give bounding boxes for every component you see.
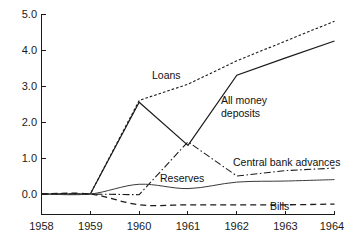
y-tick-label-4: 4.0 bbox=[22, 44, 37, 56]
series-line-loans bbox=[42, 21, 335, 194]
y-axis bbox=[42, 14, 46, 215]
y-tick-label-3: 3.0 bbox=[22, 80, 37, 92]
series-label-all-money-deposits-line1: All money bbox=[221, 94, 268, 106]
line-chart: 5.0 4.0 3.0 2.0 1.0 0.0 1958 1959 1960 1… bbox=[0, 0, 354, 246]
x-tick-label-1964: 1964 bbox=[320, 220, 344, 232]
y-tick-label-2: 2.0 bbox=[22, 116, 37, 128]
x-tick-label-1963: 1963 bbox=[273, 220, 297, 232]
x-tick-label-1961: 1961 bbox=[176, 220, 200, 232]
series-label-all-money-deposits-line2: deposits bbox=[221, 107, 260, 119]
chart-container: 5.0 4.0 3.0 2.0 1.0 0.0 1958 1959 1960 1… bbox=[0, 0, 354, 246]
series-label-reserves: Reserves bbox=[160, 172, 204, 184]
series-label-loans: Loans bbox=[152, 69, 181, 81]
series-label-central-bank-advances: Central bank advances bbox=[233, 156, 340, 168]
series-line-central-bank-advances bbox=[42, 142, 335, 195]
series-label-bills: Bills bbox=[270, 200, 289, 212]
y-tick-label-0: 0.0 bbox=[22, 188, 37, 200]
y-tick-label-5: 5.0 bbox=[22, 8, 37, 20]
y-tick-label-1: 1.0 bbox=[22, 152, 37, 164]
series-line-bills bbox=[42, 193, 335, 205]
y-axis-tick-labels: 5.0 4.0 3.0 2.0 1.0 0.0 bbox=[22, 8, 37, 200]
x-tick-label-1962: 1962 bbox=[224, 220, 248, 232]
series-annotations: Loans All money deposits Central bank ad… bbox=[152, 69, 340, 212]
x-tick-label-1960: 1960 bbox=[127, 220, 151, 232]
x-axis bbox=[42, 211, 335, 215]
x-axis-tick-labels: 1958 1959 1960 1961 1962 1963 1964 bbox=[29, 220, 344, 232]
x-tick-label-1958: 1958 bbox=[29, 220, 53, 232]
x-tick-label-1959: 1959 bbox=[78, 220, 102, 232]
